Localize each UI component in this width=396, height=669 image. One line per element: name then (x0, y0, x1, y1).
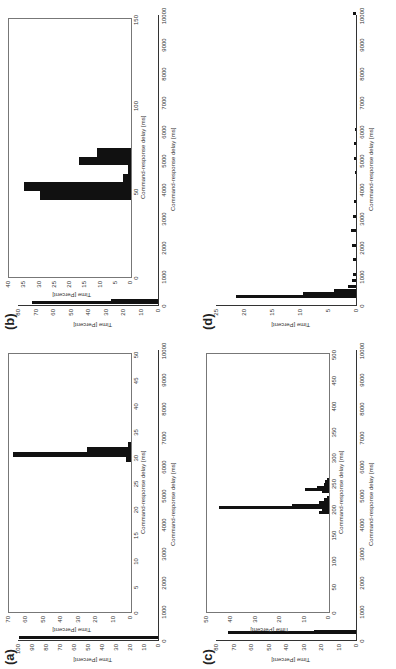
inset-x-tick: 350 (331, 427, 337, 437)
inset-axes (8, 18, 132, 278)
inset-bar (324, 483, 329, 486)
inset-y-axis-label: Time [Percent] (52, 292, 91, 298)
inset-bar (128, 165, 131, 174)
x-tick: 9000 (161, 373, 167, 386)
inset-bar (324, 498, 329, 501)
inset-y-tick: 40 (5, 281, 11, 291)
inset-y-tick: 25 (51, 281, 57, 291)
y-axis-label: Time [Percent] (271, 657, 310, 663)
y-tick: 70 (57, 644, 63, 655)
inset-x-tick: 50 (331, 584, 337, 591)
inset-y-tick: 0 (325, 616, 331, 626)
inset-x-axis-label: Command-response delay [ms] (140, 116, 146, 199)
inset-bar (123, 174, 131, 183)
inset-x-axis-label: Command-response delay [ms] (140, 451, 146, 534)
bar (19, 636, 158, 639)
bar (236, 295, 356, 298)
panel-c: (c)0100020003000400050006000700080009000… (198, 335, 396, 669)
inset-x-tick: 0 (133, 276, 139, 279)
inset-bar (319, 501, 329, 504)
bar (354, 143, 356, 146)
y-tick: 15 (269, 309, 275, 320)
inset-y-tick: 20 (276, 616, 282, 626)
inset-y-tick: 35 (20, 281, 26, 291)
x-tick: 2000 (359, 241, 365, 254)
inset-y-tick: 0 (127, 616, 133, 626)
x-axis-label: Command-response delay [ms] (368, 128, 374, 211)
y-axis-label: Time [Percent] (271, 322, 310, 328)
bar (355, 172, 356, 175)
x-tick: 2000 (161, 576, 167, 589)
inset-y-tick: 10 (97, 281, 103, 291)
inset-y-tick: 20 (92, 616, 98, 626)
bar (353, 12, 356, 15)
inset-y-axis-label: Time [Percent] (250, 627, 289, 633)
inset-bar (305, 488, 329, 491)
y-tick: 10 (138, 309, 144, 320)
bar (354, 157, 356, 160)
inset-y-tick: 70 (5, 616, 11, 626)
bar (352, 244, 356, 247)
x-tick: 8000 (359, 67, 365, 80)
x-tick: 1000 (359, 605, 365, 618)
inset-x-tick: 100 (133, 101, 139, 111)
inset-bar (126, 457, 131, 462)
inset-x-tick: 15 (133, 532, 139, 539)
inset-y-tick: 10 (301, 616, 307, 626)
inset-y-tick: 30 (75, 616, 81, 626)
y-tick: 50 (68, 309, 74, 320)
inset-x-tick: 250 (331, 479, 337, 489)
x-tick: 3000 (161, 212, 167, 225)
y-tick: 5 (325, 309, 331, 320)
inset-x-tick: 35 (133, 429, 139, 436)
inset-x-tick: 30 (133, 455, 139, 462)
x-tick: 0 (359, 639, 365, 642)
y-tick: 40 (85, 309, 91, 320)
inset-bar (40, 191, 132, 200)
y-tick: 0 (353, 644, 359, 655)
y-tick: 30 (103, 309, 109, 320)
bar (351, 230, 356, 233)
y-tick: 80 (15, 309, 21, 320)
x-tick: 8000 (161, 402, 167, 415)
y-tick: 20 (318, 644, 324, 655)
y-tick: 40 (99, 644, 105, 655)
inset-bar (128, 442, 131, 447)
x-axis-label: Command-response delay [ms] (368, 463, 374, 546)
x-tick: 1000 (161, 605, 167, 618)
x-axis-label: Command-response delay [ms] (170, 128, 176, 211)
inset-x-tick: 400 (331, 402, 337, 412)
x-tick: 9000 (359, 373, 365, 386)
x-tick: 5000 (359, 489, 365, 502)
inset-x-tick: 5 (133, 586, 139, 589)
inset-bar (97, 148, 131, 157)
x-tick: 8000 (359, 402, 365, 415)
inset-y-axis-label: Time [Percent] (52, 627, 91, 633)
bar (348, 285, 356, 288)
inset-bar (87, 447, 131, 452)
inset-bar (79, 157, 131, 166)
bar (314, 630, 356, 633)
inset-y-tick: 15 (81, 281, 87, 291)
x-tick: 6000 (359, 460, 365, 473)
y-tick: 20 (241, 309, 247, 320)
x-tick: 4000 (359, 183, 365, 196)
y-tick: 20 (127, 644, 133, 655)
inset-x-tick: 150 (133, 15, 139, 25)
x-tick: 4000 (161, 183, 167, 196)
inset-x-tick: 20 (133, 506, 139, 513)
x-tick: 3000 (359, 212, 365, 225)
inset-x-tick: 0 (331, 611, 337, 614)
y-tick: 80 (43, 644, 49, 655)
x-tick: 5000 (161, 489, 167, 502)
inset-y-tick: 10 (110, 616, 116, 626)
bar (111, 299, 158, 302)
inset-bar (317, 486, 329, 489)
bar (352, 279, 356, 282)
inset-x-tick: 25 (133, 481, 139, 488)
y-tick: 70 (231, 644, 237, 655)
y-axis-label: Time [Percent] (73, 322, 112, 328)
y-tick: 50 (266, 644, 272, 655)
inset-x-tick: 0 (133, 611, 139, 614)
x-tick: 10000 (161, 8, 167, 25)
